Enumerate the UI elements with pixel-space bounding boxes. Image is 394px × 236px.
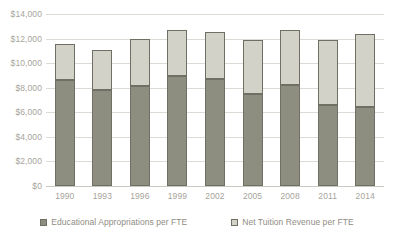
bar-group[interactable]: [355, 14, 375, 186]
bar-segment-net-tuition-revenue[interactable]: [318, 40, 338, 105]
bar-segment-net-tuition-revenue[interactable]: [167, 30, 187, 76]
y-axis-tick-label: $10,000: [0, 59, 42, 68]
bar-segment-net-tuition-revenue[interactable]: [205, 32, 225, 79]
y-axis: $0$2,000$4,000$6,000$8,000$10,000$12,000…: [0, 0, 42, 236]
bar-group[interactable]: [243, 14, 263, 186]
x-axis-tick-label: 2005: [233, 189, 273, 203]
bar-segment-educational-appropriations[interactable]: [205, 79, 225, 186]
legend-swatch-icon: [231, 219, 238, 226]
y-axis-tick-label: $14,000: [0, 10, 42, 19]
bar-segment-educational-appropriations[interactable]: [167, 76, 187, 186]
bar-group[interactable]: [167, 14, 187, 186]
bar-group[interactable]: [280, 14, 300, 186]
bar-segment-educational-appropriations[interactable]: [280, 85, 300, 186]
x-axis: 199019931996199920022005200820112014: [46, 189, 384, 205]
y-axis-tick-label: $8,000: [0, 83, 42, 92]
y-axis-tick-label: $4,000: [0, 133, 42, 142]
bar-segment-net-tuition-revenue[interactable]: [243, 40, 263, 93]
bar-segment-educational-appropriations[interactable]: [55, 80, 75, 186]
chart-legend: Educational Appropriations per FTENet Tu…: [0, 212, 394, 232]
stacked-bar-chart: $0$2,000$4,000$6,000$8,000$10,000$12,000…: [0, 0, 394, 236]
bar-segment-net-tuition-revenue[interactable]: [55, 44, 75, 80]
bar-group[interactable]: [92, 14, 112, 186]
y-axis-tick-label: $12,000: [0, 34, 42, 43]
legend-label: Educational Appropriations per FTE: [51, 218, 187, 227]
bar-segment-educational-appropriations[interactable]: [318, 105, 338, 186]
x-axis-tick-label: 2011: [308, 189, 348, 203]
legend-entry[interactable]: Educational Appropriations per FTE: [40, 218, 187, 227]
x-axis-tick-label: 1996: [120, 189, 160, 203]
bar-segment-net-tuition-revenue[interactable]: [280, 30, 300, 85]
y-axis-tick-label: $2,000: [0, 157, 42, 166]
bar-group[interactable]: [205, 14, 225, 186]
x-axis-tick-label: 1999: [157, 189, 197, 203]
bar-group[interactable]: [130, 14, 150, 186]
plot-area: [46, 14, 384, 186]
gridline: [46, 186, 384, 187]
x-axis-tick-label: 2002: [195, 189, 235, 203]
bar-segment-net-tuition-revenue[interactable]: [355, 34, 375, 107]
bar-segment-educational-appropriations[interactable]: [243, 94, 263, 186]
bar-segment-educational-appropriations[interactable]: [355, 107, 375, 186]
legend-swatch-icon: [40, 219, 47, 226]
bar-segment-educational-appropriations[interactable]: [92, 90, 112, 186]
y-axis-tick-label: $0: [0, 182, 42, 191]
x-axis-tick-label: 2014: [345, 189, 385, 203]
bar-segment-educational-appropriations[interactable]: [130, 86, 150, 186]
legend-label: Net Tuition Revenue per FTE: [242, 218, 353, 227]
bar-segment-net-tuition-revenue[interactable]: [92, 50, 112, 91]
y-axis-tick-label: $6,000: [0, 108, 42, 117]
x-axis-tick-label: 1990: [45, 189, 85, 203]
bar-group[interactable]: [55, 14, 75, 186]
bar-segment-net-tuition-revenue[interactable]: [130, 39, 150, 86]
bar-group[interactable]: [318, 14, 338, 186]
x-axis-tick-label: 1993: [82, 189, 122, 203]
legend-entry[interactable]: Net Tuition Revenue per FTE: [231, 218, 353, 227]
x-axis-tick-label: 2008: [270, 189, 310, 203]
